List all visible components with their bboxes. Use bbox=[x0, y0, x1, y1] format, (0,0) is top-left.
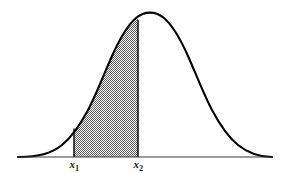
normal-distribution-curve bbox=[18, 13, 272, 157]
normal-distribution-figure: x1 x2 bbox=[0, 0, 289, 172]
axis-label-x2-subscript: 2 bbox=[139, 164, 143, 173]
axis-label-x1: x1 bbox=[69, 159, 78, 170]
axis-label-x2-base: x bbox=[133, 158, 139, 170]
axis-label-x1-base: x bbox=[69, 158, 75, 170]
axis-label-x1-subscript: 1 bbox=[75, 164, 79, 173]
normal-curve-plot bbox=[0, 0, 289, 172]
shaded-area-between-x1-and-x2 bbox=[74, 0, 138, 157]
axis-label-x2: x2 bbox=[133, 159, 142, 170]
